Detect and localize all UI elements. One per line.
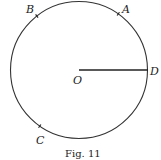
figure-canvas: O A B C D Fig. 11 bbox=[0, 0, 161, 160]
label-a: A bbox=[121, 3, 130, 16]
label-b: B bbox=[25, 3, 34, 16]
figure-caption: Fig. 11 bbox=[65, 148, 101, 159]
label-d: D bbox=[149, 65, 159, 78]
label-c: C bbox=[36, 134, 45, 147]
label-o: O bbox=[73, 74, 82, 87]
